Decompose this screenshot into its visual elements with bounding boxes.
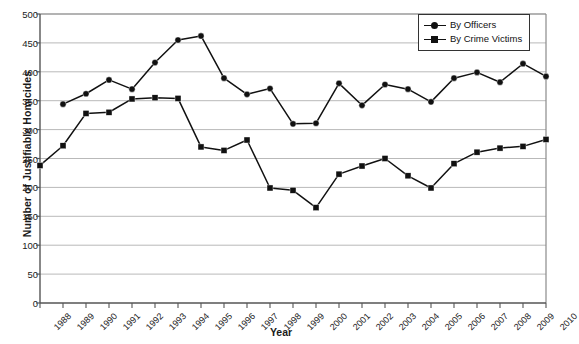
legend-item-by-crime-victims[interactable]: By Crime Victims <box>424 32 522 46</box>
legend-label-by-crime-victims: By Crime Victims <box>450 32 522 46</box>
chart-legend: By Officers By Crime Victims <box>418 14 530 51</box>
data-point[interactable] <box>244 137 250 143</box>
data-point[interactable] <box>221 75 227 81</box>
data-point[interactable] <box>474 149 480 155</box>
data-point[interactable] <box>428 185 434 191</box>
data-point[interactable] <box>290 121 296 127</box>
data-point[interactable] <box>405 173 411 179</box>
data-point[interactable] <box>175 95 181 101</box>
legend-item-by-officers[interactable]: By Officers <box>424 18 522 32</box>
data-point[interactable] <box>313 205 319 211</box>
data-point[interactable] <box>336 80 342 86</box>
data-point[interactable] <box>428 99 434 105</box>
data-point[interactable] <box>520 143 526 149</box>
data-point[interactable] <box>106 77 112 83</box>
data-point[interactable] <box>359 163 365 169</box>
data-point[interactable] <box>83 110 89 116</box>
data-point[interactable] <box>290 187 296 193</box>
data-point[interactable] <box>382 81 388 87</box>
data-point[interactable] <box>60 143 66 149</box>
data-point[interactable] <box>106 109 112 115</box>
data-point[interactable] <box>382 156 388 162</box>
data-point[interactable] <box>60 101 66 107</box>
data-point[interactable] <box>336 171 342 177</box>
data-point[interactable] <box>129 86 135 92</box>
data-point[interactable] <box>497 79 503 85</box>
legend-label-by-officers: By Officers <box>450 18 496 32</box>
data-point[interactable] <box>152 59 158 65</box>
data-point[interactable] <box>175 37 181 43</box>
data-point[interactable] <box>129 96 135 102</box>
data-point[interactable] <box>83 91 89 97</box>
data-point[interactable] <box>221 147 227 153</box>
data-point[interactable] <box>198 33 204 39</box>
square-marker-icon <box>424 33 446 45</box>
data-point[interactable] <box>267 85 273 91</box>
data-point[interactable] <box>244 91 250 97</box>
data-point[interactable] <box>543 73 549 79</box>
data-point[interactable] <box>497 145 503 151</box>
data-point[interactable] <box>152 95 158 101</box>
data-point[interactable] <box>520 61 526 67</box>
data-point[interactable] <box>474 69 480 75</box>
data-point[interactable] <box>313 120 319 126</box>
data-point[interactable] <box>198 144 204 150</box>
data-point[interactable] <box>451 75 457 81</box>
data-point[interactable] <box>267 185 273 191</box>
data-point[interactable] <box>359 102 365 108</box>
circle-marker-icon <box>424 19 446 31</box>
data-point[interactable] <box>37 162 43 168</box>
data-point[interactable] <box>451 161 457 167</box>
data-point[interactable] <box>405 86 411 92</box>
data-point[interactable] <box>543 136 549 142</box>
